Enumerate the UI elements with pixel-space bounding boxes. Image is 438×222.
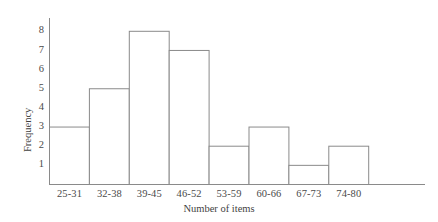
histogram-bar — [209, 146, 249, 184]
histogram-bar — [169, 50, 209, 184]
histogram-bar — [129, 31, 169, 184]
bars-group — [50, 31, 369, 184]
histogram-bar — [329, 146, 369, 184]
y-axis-tick-label: 8 — [30, 24, 44, 35]
histogram-bar — [89, 89, 129, 185]
x-axis-tick-label: 74-80 — [326, 188, 372, 199]
histogram-bar — [289, 165, 329, 184]
y-axis-title: Frequency — [22, 108, 33, 152]
y-axis-tick-label: 7 — [30, 44, 44, 55]
histogram-bar — [249, 127, 289, 184]
histogram-figure: 12345678 25-3132-3839-4546-5253-5960-666… — [0, 0, 438, 222]
x-axis-title: Number of items — [0, 203, 438, 214]
y-axis-tick-label: 6 — [30, 63, 44, 74]
histogram-bar — [50, 127, 90, 184]
y-axis-tick-label: 5 — [30, 82, 44, 93]
y-axis-tick-label: 1 — [30, 158, 44, 169]
